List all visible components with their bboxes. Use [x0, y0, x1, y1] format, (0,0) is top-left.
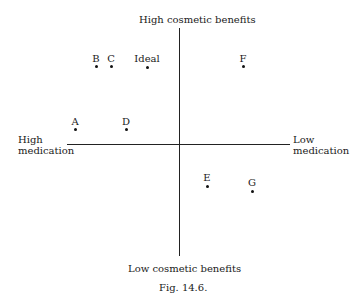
point-a — [74, 128, 77, 131]
point-d — [125, 128, 128, 131]
horizontal-axis — [67, 144, 290, 145]
point-label-a: A — [71, 117, 78, 127]
point-g — [251, 190, 254, 193]
point-label-f: F — [240, 54, 247, 64]
y-axis-top-label: High cosmetic benefits — [139, 14, 256, 25]
point-label-g: G — [248, 178, 256, 188]
point-label-d: D — [122, 117, 130, 127]
y-axis-bottom-label: Low cosmetic benefits — [128, 263, 241, 274]
x-axis-left-label-line1: High — [18, 134, 43, 145]
point-f — [242, 65, 245, 68]
point-label-b: B — [92, 54, 99, 64]
point-label-c: C — [107, 54, 115, 64]
vertical-axis — [179, 28, 180, 256]
point-c — [110, 65, 113, 68]
point-label-ideal: Ideal — [134, 54, 159, 64]
x-axis-right-label-line2: medication — [293, 145, 349, 156]
x-axis-left-label-line2: medication — [18, 145, 74, 156]
point-e — [206, 185, 209, 188]
point-label-e: E — [203, 173, 210, 183]
point-ideal — [146, 66, 149, 69]
figure-caption: Fig. 14.6. — [159, 282, 207, 293]
point-b — [95, 65, 98, 68]
x-axis-right-label-line1: Low — [293, 134, 314, 145]
